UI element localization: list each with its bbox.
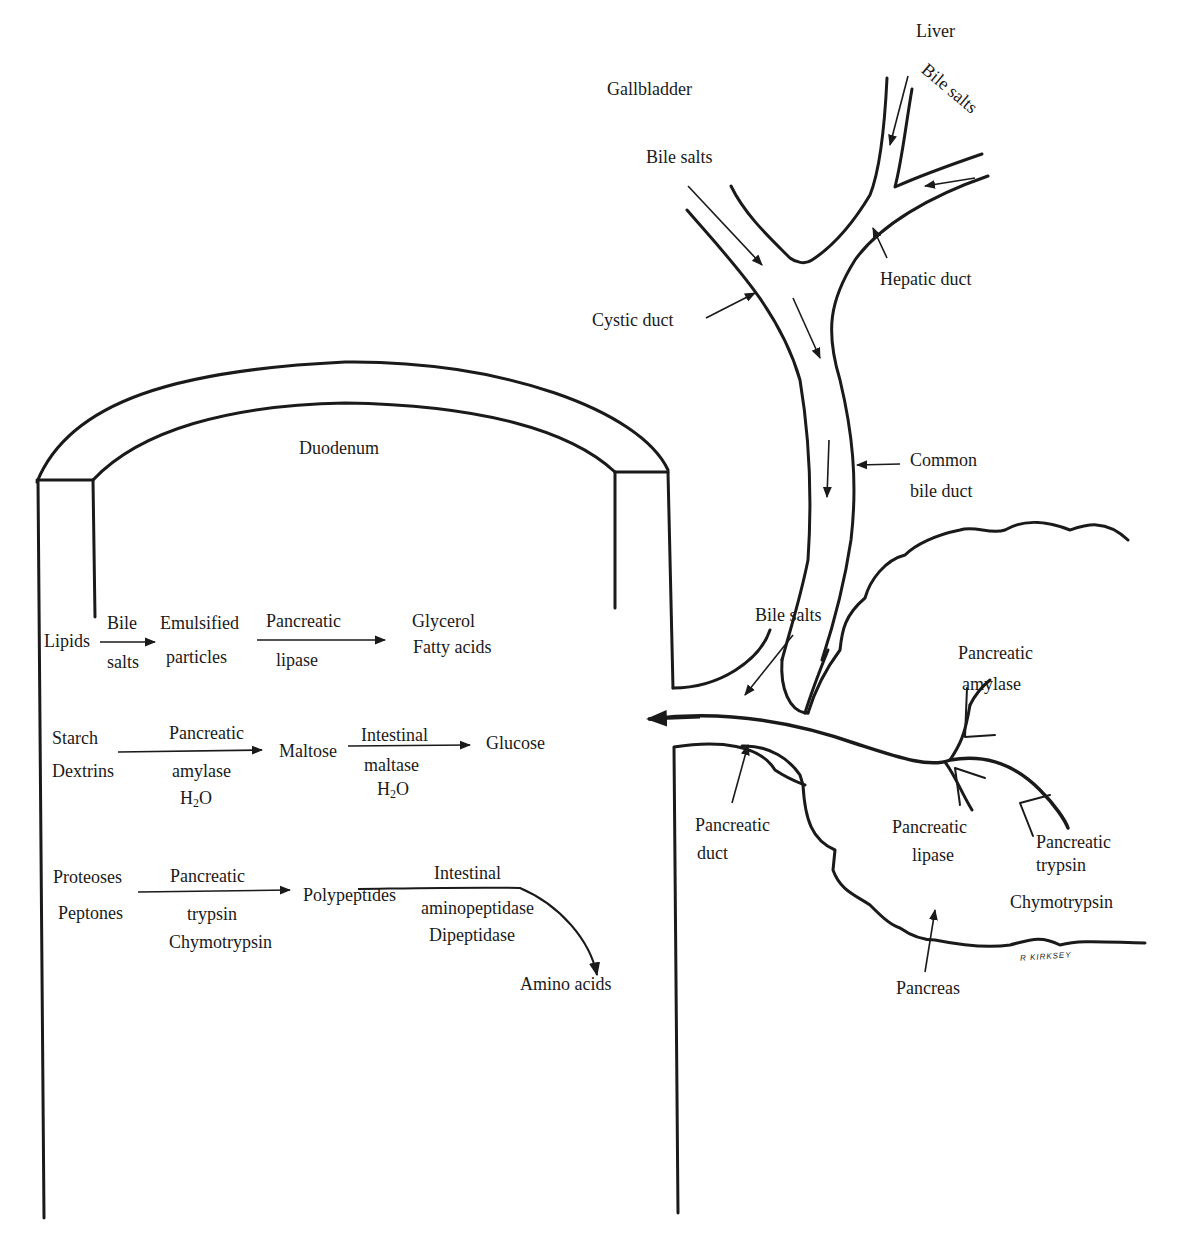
label-pancreatic-amylase: Pancreatic [958, 644, 1033, 662]
hepatic-duct-left [731, 78, 887, 263]
starch-enzyme-bottom: amylase [172, 762, 231, 780]
starch-cofactor-water: H2O [180, 789, 212, 809]
protein-product-amino-acids: Amino acids [520, 975, 612, 993]
label-bile-salts-entry: Bile salts [755, 606, 822, 624]
duodenum-right-wall-upper [668, 472, 673, 688]
label-liver: Liver [916, 22, 955, 40]
duodenum-left-wall [38, 480, 44, 1218]
hepatic-duct-right [822, 176, 988, 660]
starch-product-glucose: Glucose [486, 734, 545, 752]
lipids-agent-bottom: salts [107, 653, 139, 671]
maltose-cofactor-water: H2O [377, 780, 409, 800]
label-common-bile-duct: Common [910, 451, 977, 469]
label-pancreas: Pancreas [896, 979, 960, 997]
label-duodenum: Duodenum [299, 439, 379, 457]
lipids-agent-top: Bile [107, 614, 137, 632]
starch-substrate: Starch [52, 729, 98, 747]
label-chymotrypsin: Chymotrypsin [1010, 893, 1113, 911]
protein-substrate-proteoses: Proteoses [53, 868, 122, 886]
duodenum-outer-wall [37, 362, 668, 482]
lipids-intermediate-line2: particles [166, 648, 227, 666]
label-pancreatic-amylase-line2: amylase [962, 675, 1021, 693]
starch-enzyme2-bottom: maltase [364, 756, 419, 774]
label-cystic-duct: Cystic duct [592, 311, 674, 329]
label-pancreatic-lipase-line2: lipase [912, 846, 954, 864]
label-common-bile-duct-line2: bile duct [910, 482, 972, 500]
protein-enzyme2-aminopeptidase: aminopeptidase [421, 899, 534, 917]
starch-enzyme-top: Pancreatic [169, 724, 244, 742]
protein-enzyme-trypsin: trypsin [187, 905, 237, 923]
starch-substrate-dextrins: Dextrins [52, 762, 114, 780]
pancreatic-duct [650, 716, 1068, 828]
protein-substrate-peptones: Peptones [58, 904, 123, 922]
lipids-product-glycerol: Glycerol [412, 612, 475, 630]
starch-enzyme2-top: Intestinal [361, 726, 428, 744]
lipids-enzyme-top: Pancreatic [266, 612, 341, 630]
protein-enzyme2-dipeptidase: Dipeptidase [429, 926, 515, 944]
label-gallbladder: Gallbladder [607, 80, 692, 98]
starch-intermediate-maltose: Maltose [279, 742, 337, 760]
label-hepatic-duct: Hepatic duct [880, 270, 971, 288]
label-pancreatic-trypsin: Pancreatic [1036, 833, 1111, 851]
label-pancreatic-duct-line2: duct [697, 844, 728, 862]
protein-intermediate-polypeptides: Polypeptides [303, 886, 396, 904]
protein-enzyme-top: Pancreatic [170, 867, 245, 885]
lipids-product-fatty-acids: Fatty acids [413, 638, 492, 656]
lipids-substrate: Lipids [44, 632, 90, 650]
label-pancreatic-trypsin-line2: trypsin [1036, 856, 1086, 874]
digestion-diagram: Liver Bile salts Gallbladder Bile salts … [0, 0, 1178, 1247]
label-bile-salts-gallbladder: Bile salts [646, 148, 713, 166]
lipids-intermediate: Emulsified [160, 614, 239, 632]
protein-enzyme2-top: Intestinal [434, 864, 501, 882]
label-pancreatic-lipase: Pancreatic [892, 818, 967, 836]
cystic-duct-wall [687, 210, 810, 660]
lipids-enzyme-bottom: lipase [276, 651, 318, 669]
protein-enzyme-chymotrypsin: Chymotrypsin [169, 933, 272, 951]
label-pancreatic-duct: Pancreatic [695, 816, 770, 834]
